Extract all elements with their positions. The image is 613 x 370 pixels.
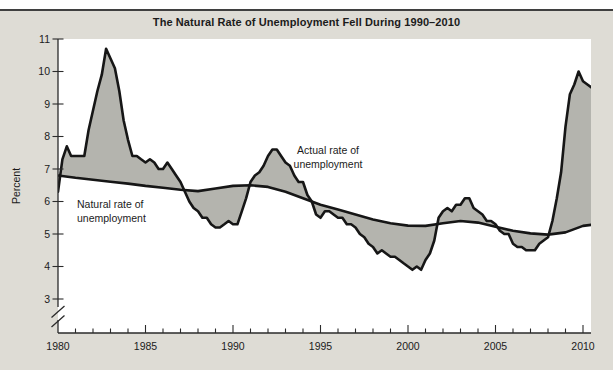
x-tick-label: 1980: [40, 340, 76, 353]
x-tick-label: 2010: [565, 340, 601, 353]
x-tick-label: 1995: [303, 340, 339, 353]
y-tick-label: 9: [26, 98, 50, 111]
y-tick-label: 8: [26, 130, 50, 143]
y-tick-label: 10: [26, 65, 50, 78]
y-tick-label: 7: [26, 163, 50, 176]
x-tick-label: 1985: [128, 340, 164, 353]
y-axis-title: Percent: [10, 146, 24, 226]
x-tick-label: 2005: [478, 340, 514, 353]
y-tick-label: 4: [26, 260, 50, 273]
y-tick-label: 11: [26, 33, 50, 46]
chart-plot: [0, 0, 613, 370]
x-tick-label: 1990: [215, 340, 251, 353]
x-tick-label: 2000: [390, 340, 426, 353]
y-tick-label: 6: [26, 195, 50, 208]
figure: The Natural Rate of Unemployment Fell Du…: [0, 0, 613, 370]
annotation-natural-rate: Natural rate of unemployment: [77, 198, 207, 226]
y-tick-label: 5: [26, 228, 50, 241]
y-tick-label: 3: [26, 293, 50, 306]
annotation-actual-rate: Actual rate of unemployment: [272, 144, 384, 172]
